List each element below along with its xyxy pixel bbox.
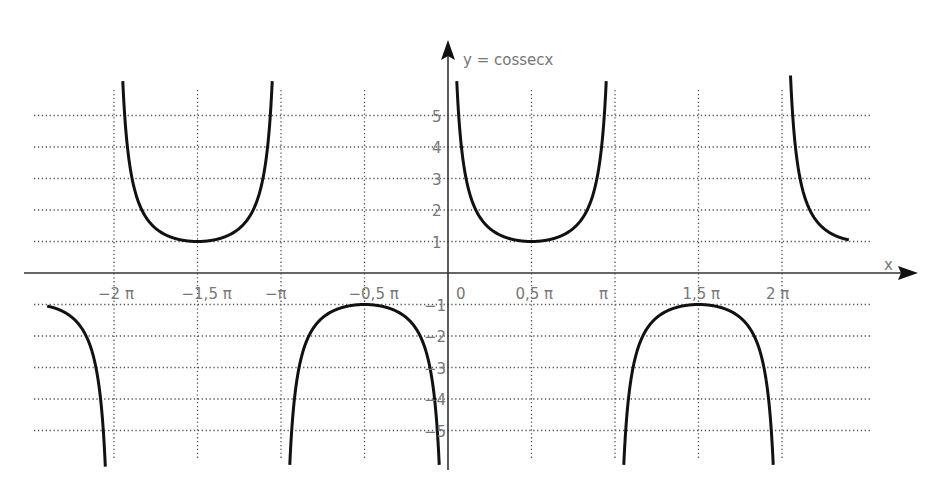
function-label: y = cossecx — [463, 51, 554, 69]
y-tick-label: 1 — [432, 234, 442, 252]
y-tick-label: −3 — [424, 360, 446, 378]
x-axis-label: x — [884, 256, 893, 274]
y-tick-label: 5 — [432, 108, 442, 126]
y-tick-label: −1 — [424, 297, 446, 315]
x-tick-label: 2 π — [766, 285, 789, 303]
y-tick-label: 2 — [432, 202, 442, 220]
x-tick-label: −0,5 π — [349, 285, 399, 303]
x-tick-label: −π — [265, 285, 287, 303]
y-tick-label: −5 — [424, 423, 446, 441]
x-tick-label: π — [599, 285, 608, 303]
y-tick-label: −4 — [424, 391, 446, 409]
x-tick-label: 1,5 π — [683, 285, 721, 303]
x-tick-label: −2 π — [98, 285, 134, 303]
x-axis-arrow-icon — [898, 266, 918, 280]
cosecant-chart: y = cossecx x −2 π−1,5 π−π−0,5 π00,5 ππ1… — [0, 0, 949, 490]
csc-branch — [791, 76, 849, 240]
x-tick-label: −1,5 π — [182, 285, 232, 303]
y-tick-label: 3 — [432, 171, 442, 189]
csc-branch — [47, 306, 105, 467]
y-tick-labels: 12345−1−2−3−4−5 — [424, 108, 446, 441]
x-tick-label: 0 — [456, 285, 466, 303]
y-tick-label: −2 — [424, 328, 446, 346]
y-tick-label: 4 — [432, 139, 442, 157]
x-tick-label: 0,5 π — [516, 285, 554, 303]
